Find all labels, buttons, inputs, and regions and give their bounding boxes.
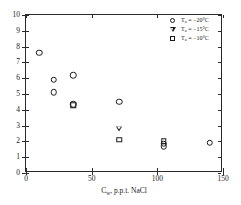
x-tick-label: 100 xyxy=(152,175,163,183)
y-tick-label: 9 xyxy=(16,27,20,35)
data-point-square xyxy=(71,102,77,108)
legend-symbol-value: = −10°C xyxy=(187,35,209,41)
x-tick-label: 50 xyxy=(88,175,96,183)
legend-item: Ta = −10°C xyxy=(168,34,220,43)
y-tick-inner xyxy=(26,62,29,63)
legend-item-label: Ta = −20°C xyxy=(181,17,209,25)
legend-triangle-down-icon xyxy=(168,25,177,34)
legend-symbol-value: = −15°C xyxy=(187,26,209,32)
x-tick-top xyxy=(157,15,158,18)
y-tick-inner xyxy=(26,141,29,142)
data-point-square xyxy=(161,139,167,145)
scatter-chart-figure: Critical thickness, cm Cw, p.p.t. NaCl 0… xyxy=(0,0,241,205)
legend-item: Ta = −15°C xyxy=(168,25,220,34)
x-axis-title-rest: , p.p.t. NaCl xyxy=(110,186,147,195)
y-tick-label: 8 xyxy=(16,43,20,51)
y-tick-label: 4 xyxy=(16,106,20,114)
y-tick-right xyxy=(218,126,221,127)
square-marker-icon xyxy=(170,36,175,41)
data-point-circle xyxy=(116,99,123,106)
x-tick-inner xyxy=(26,168,27,171)
legend-circle-icon xyxy=(168,16,177,25)
y-tick-right xyxy=(218,94,221,95)
y-tick-inner xyxy=(26,47,29,48)
y-tick-label: 10 xyxy=(13,11,21,19)
triangle-down-marker-icon xyxy=(170,27,176,32)
data-point-circle xyxy=(70,72,77,79)
y-tick-right xyxy=(218,78,221,79)
y-tick-inner xyxy=(26,78,29,79)
y-tick-right xyxy=(218,157,221,158)
y-tick-right xyxy=(218,110,221,111)
legend: Ta = −20°CTa = −15°CTa = −10°C xyxy=(168,15,220,44)
y-tick-right xyxy=(218,141,221,142)
x-tick-label: 150 xyxy=(217,175,228,183)
x-tick-top xyxy=(223,15,224,18)
legend-item-label: Ta = −15°C xyxy=(181,26,209,34)
legend-item-label: Ta = −10°C xyxy=(181,35,209,43)
y-tick-inner xyxy=(26,110,29,111)
legend-symbol-value: = −20°C xyxy=(187,17,209,23)
y-tick-label: 2 xyxy=(16,138,20,146)
data-point-circle xyxy=(50,77,57,84)
data-point-triangle-down xyxy=(116,126,122,131)
y-tick-inner xyxy=(26,157,29,158)
circle-marker-icon xyxy=(170,18,176,24)
x-tick-label: 0 xyxy=(24,175,28,183)
data-point-circle xyxy=(207,140,214,147)
y-tick-label: 7 xyxy=(16,59,20,67)
y-tick-label: 1 xyxy=(16,153,20,161)
data-point-circle xyxy=(36,50,43,57)
y-tick-label: 0 xyxy=(16,169,20,177)
y-tick-right xyxy=(218,47,221,48)
y-tick-inner xyxy=(26,126,29,127)
x-axis-title: Cw, p.p.t. NaCl xyxy=(101,186,147,196)
y-tick-label: 5 xyxy=(16,90,20,98)
x-tick-inner xyxy=(157,168,158,171)
y-tick-inner xyxy=(26,94,29,95)
x-tick-top xyxy=(26,15,27,18)
data-point-square xyxy=(116,137,122,143)
x-tick-inner xyxy=(92,168,93,171)
y-tick-inner xyxy=(26,31,29,32)
x-tick-top xyxy=(92,15,93,18)
y-tick-label: 3 xyxy=(16,122,20,130)
legend-square-icon xyxy=(168,34,177,43)
data-point-circle xyxy=(50,89,57,96)
y-tick-right xyxy=(218,62,221,63)
legend-item: Ta = −20°C xyxy=(168,16,220,25)
x-tick-inner xyxy=(223,168,224,171)
y-tick-label: 6 xyxy=(16,74,20,82)
